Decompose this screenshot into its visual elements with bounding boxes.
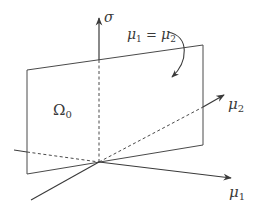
neg-mu2-axis-visible — [14, 150, 27, 152]
mu2-axis-arrow — [203, 95, 224, 107]
mu1-symbol: μ — [229, 183, 239, 201]
sigma-axis-label: σ — [104, 10, 114, 24]
eq-right-subscript: 2 — [170, 34, 176, 44]
eq-equals: = — [142, 27, 161, 42]
mu1-axis-label: μ1 — [229, 185, 245, 202]
mu1-subscript: 1 — [239, 191, 245, 202]
eq-left-symbol: μ — [127, 26, 136, 42]
plane-subscript: 0 — [65, 109, 71, 120]
plane-equation-label: μ1 = μ2 — [127, 27, 176, 44]
mu2-axis-label: μ2 — [228, 97, 244, 114]
mu1-axis-arrow — [99, 162, 231, 178]
neg-mu2-axis-hidden — [27, 152, 99, 162]
eq-right-symbol: μ — [161, 26, 170, 42]
mu2-subscript: 2 — [238, 103, 244, 114]
diagram-canvas: σ μ1 = μ2 Ω0 μ2 μ1 — [0, 0, 255, 213]
plane-label: Ω0 — [53, 103, 72, 120]
mu2-symbol: μ — [228, 95, 238, 113]
plane-symbol: Ω — [53, 101, 65, 119]
